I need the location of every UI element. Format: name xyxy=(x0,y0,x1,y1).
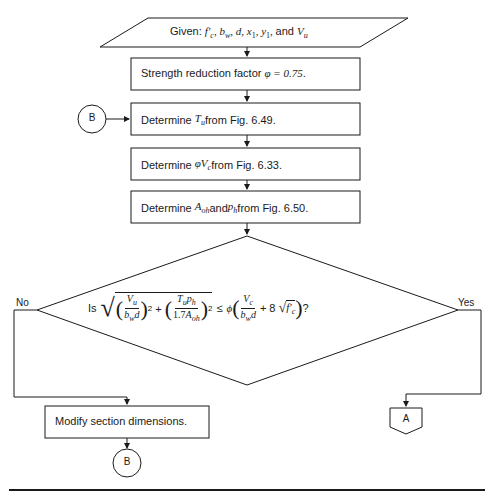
step4-math1: Aoh xyxy=(195,200,210,215)
step4-prefix: Determine xyxy=(141,202,192,214)
modify-text: Modify section dimensions. xyxy=(55,415,187,427)
decision-suffix: ? xyxy=(303,302,309,314)
step3-prefix: Determine xyxy=(141,159,192,171)
step1-suffix: . xyxy=(303,67,306,79)
yes-label: Yes xyxy=(458,297,474,308)
no-label: No xyxy=(16,297,29,308)
step1-text: Strength reduction factor φ = 0.75. xyxy=(141,67,306,79)
step2-prefix: Determine xyxy=(141,114,192,126)
step4-suffix: from Fig. 6.50. xyxy=(237,202,308,214)
decision-condition: Is √ ( Vubwd )2 + ( Tuph1.7Aoh )2 ≤ ϕ ( … xyxy=(88,292,309,324)
connector-b-entry-label: B xyxy=(82,112,102,123)
decision-prefix: Is xyxy=(88,302,97,314)
connector-b-loop-label: B xyxy=(117,456,137,467)
step4-text: Determine Aoh and ph from Fig. 6.50. xyxy=(141,200,308,215)
step2-text: Determine Tu from Fig. 6.49. xyxy=(141,112,276,127)
input-vars: f′c, bw, d, x1, y1, xyxy=(205,25,276,37)
step3-suffix: from Fig. 6.33. xyxy=(211,159,282,171)
step4-math2: ph xyxy=(228,200,238,215)
step1-math: φ = 0.75 xyxy=(264,67,302,79)
step3-math: φVc xyxy=(195,157,211,172)
step2-math: Tu xyxy=(195,112,205,127)
step2-suffix: from Fig. 6.49. xyxy=(205,114,276,126)
input-text: Given: f′c, bw, d, x1, y1, and Vu xyxy=(170,25,308,40)
step4-mid: and xyxy=(209,202,227,214)
input-prefix: Given: xyxy=(170,25,205,37)
connector-a-label: A xyxy=(396,413,416,424)
step1-prefix: Strength reduction factor xyxy=(141,67,261,79)
sqrt-expression: √ ( Vubwd )2 + ( Tuph1.7Aoh )2 xyxy=(101,292,213,324)
step3-text: Determine φVc from Fig. 6.33. xyxy=(141,157,282,172)
